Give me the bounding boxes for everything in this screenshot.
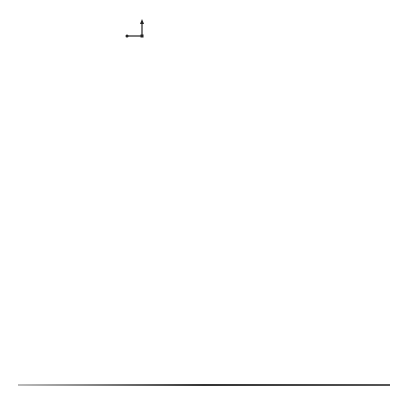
figure-canvas <box>0 0 406 396</box>
bottom-divider-rule <box>18 384 390 386</box>
coordinate-axes-icon <box>126 19 145 38</box>
